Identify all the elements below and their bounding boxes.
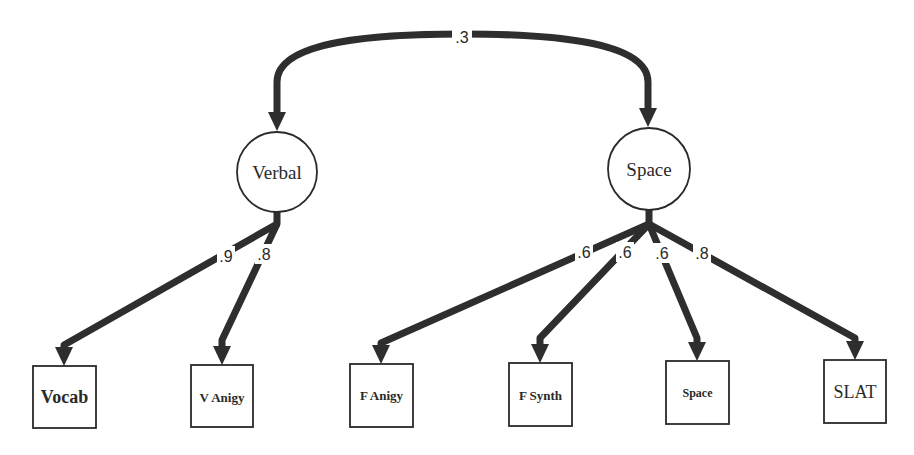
observed-node-f-synth: F Synth (509, 363, 572, 426)
path-space-fanigy (381, 210, 649, 348)
arrowhead-icon (213, 346, 231, 365)
observed-label: F Anigy (360, 388, 404, 403)
sem-diagram: .3 .9 .8 .6 .6 .6 .8 Verbal Spa (0, 0, 914, 455)
path-space-slat (649, 224, 855, 344)
correlation-coefficient: .3 (455, 29, 468, 46)
loading-verbal-vocab: .9 (219, 248, 232, 265)
loading-space-fsynth: .6 (618, 244, 631, 261)
latent-label: Verbal (252, 162, 302, 183)
space-loadings: .6 .6 .6 .8 (372, 210, 864, 364)
observed-node-space: Space (666, 361, 729, 424)
arrowhead-icon (531, 344, 549, 363)
observed-node-slat: SLAT (824, 360, 886, 423)
loading-space-slat: .8 (695, 245, 708, 262)
observed-label: V Anigy (200, 390, 245, 405)
path-space-spacetest (649, 224, 697, 345)
latent-label: Space (626, 159, 671, 180)
loading-verbal-vanigy: .8 (257, 246, 270, 263)
path-verbal-vocab (64, 212, 277, 350)
verbal-loadings: .9 .8 (55, 212, 277, 366)
arrowhead-icon (55, 347, 73, 366)
loading-space-fanigy: .6 (577, 244, 590, 261)
arrowhead-icon (268, 112, 286, 131)
observed-label: Vocab (41, 387, 88, 407)
arrowhead-icon (639, 108, 657, 127)
observed-label: Space (683, 386, 714, 400)
observed-label: F Synth (519, 388, 563, 403)
observed-node-v-anigy: V Anigy (191, 365, 253, 427)
latent-node-space: Space (608, 128, 690, 210)
loading-space-spacetest: .6 (655, 245, 668, 262)
correlation-arrow: .3 (268, 26, 657, 131)
latent-node-verbal: Verbal (237, 132, 317, 212)
observed-node-vocab: Vocab (33, 366, 96, 428)
arrowhead-icon (688, 342, 706, 361)
observed-label: SLAT (833, 382, 876, 402)
arrowhead-icon (846, 341, 864, 360)
arrowhead-icon (372, 345, 390, 364)
correlation-arc (277, 34, 648, 116)
observed-node-f-anigy: F Anigy (350, 364, 413, 427)
